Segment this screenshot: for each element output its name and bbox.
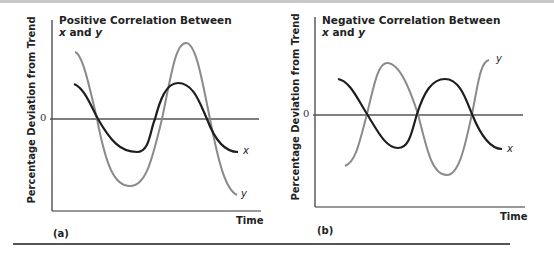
bottom-rule xyxy=(13,243,510,245)
panel-b-axes xyxy=(313,17,525,207)
chart-canvas xyxy=(0,0,554,259)
